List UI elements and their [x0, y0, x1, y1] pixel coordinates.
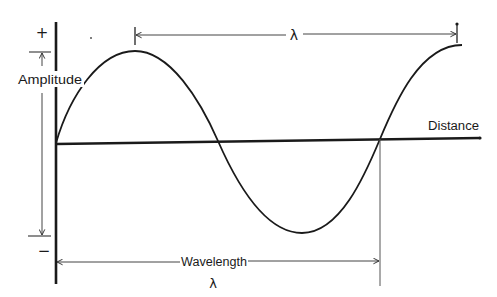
lambda-top-label: λ: [290, 27, 298, 43]
distance-axis-end-dot: [478, 136, 481, 139]
lambda-bottom-label: λ: [209, 276, 217, 291]
wavelength-label: Wavelength: [181, 255, 247, 269]
distance-label: Distance: [428, 119, 479, 133]
wave-diagram: + − Amplitude λ Distance Wavelength λ: [0, 0, 497, 297]
distance-axis: [56, 138, 480, 144]
stray-mark: [90, 37, 92, 39]
plus-sign: +: [36, 24, 49, 42]
minus-sign: −: [38, 242, 51, 260]
amplitude-label: Amplitude: [18, 73, 82, 87]
